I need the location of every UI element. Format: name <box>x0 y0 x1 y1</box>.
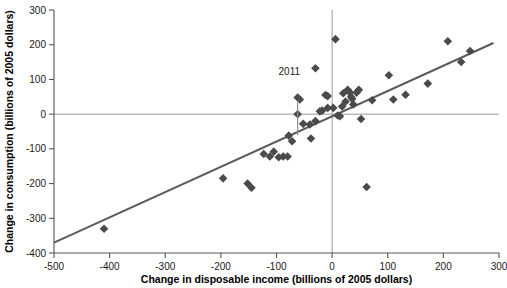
data-point-marker <box>311 64 320 73</box>
y-axis-tick-label: 200 <box>29 39 46 50</box>
data-point-marker <box>362 183 371 192</box>
data-point-marker <box>283 152 292 161</box>
data-point-marker <box>299 120 308 129</box>
x-axis-title: Change in disposable income (billions of… <box>141 273 412 285</box>
data-point-marker <box>100 224 109 233</box>
y-axis-tick-label: -300 <box>26 213 46 224</box>
y-axis-tick-label: -100 <box>26 143 46 154</box>
x-axis-tick-label: -400 <box>100 261 120 272</box>
trend-line <box>54 43 493 243</box>
y-axis-tick-label: 0 <box>40 109 46 120</box>
x-axis-tick-label: -100 <box>266 261 286 272</box>
x-axis-tick-label: -300 <box>155 261 175 272</box>
y-axis-tick-label: -400 <box>26 248 46 259</box>
data-points-group <box>100 35 475 233</box>
y-axis-tick-label: 100 <box>29 74 46 85</box>
data-point-marker <box>389 95 398 104</box>
consumption-income-scatter-chart: -400-300-200-1000100200300-500-400-300-2… <box>0 0 507 288</box>
y-axis-tick-label: 300 <box>29 5 46 16</box>
x-axis-tick-label: -500 <box>44 261 64 272</box>
x-axis-tick-label: 100 <box>379 261 396 272</box>
x-axis-tick-label: -200 <box>211 261 231 272</box>
annotation-label-2011: 2011 <box>279 66 301 77</box>
data-point-marker <box>401 90 410 99</box>
x-axis-tick-label: 0 <box>329 261 335 272</box>
data-point-marker <box>424 79 433 88</box>
data-point-marker <box>357 115 366 124</box>
data-point-marker <box>329 104 338 113</box>
data-point-marker <box>307 134 316 143</box>
plot-area: -400-300-200-1000100200300-500-400-300-2… <box>0 0 507 288</box>
data-point-marker <box>444 37 453 46</box>
data-point-marker <box>219 174 228 183</box>
x-axis-tick-label: 200 <box>435 261 452 272</box>
y-axis-tick-label: -200 <box>26 178 46 189</box>
x-axis-tick-label: 300 <box>491 261 507 272</box>
data-point-marker <box>385 71 394 80</box>
y-axis-title: Change in consumption (billions of 2005 … <box>3 10 15 253</box>
